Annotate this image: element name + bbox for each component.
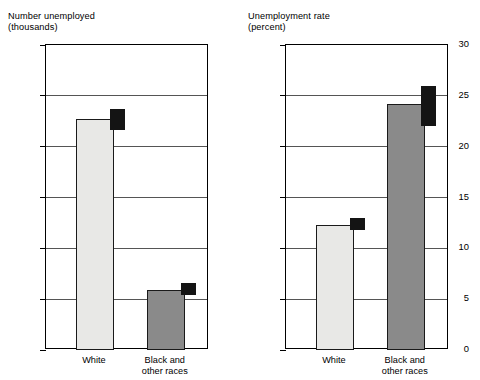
y-axis-tick-label: 5: [464, 292, 469, 303]
y-axis-tick-label: 30: [459, 38, 469, 49]
y-axis-tick-label: 25: [459, 89, 469, 100]
bar: [76, 119, 114, 350]
y-axis-tick: [280, 197, 286, 198]
chart-panel-unemployment-rate: Unemployment rate(percent) 051015202530W…: [240, 0, 480, 380]
y-axis-tick: [40, 299, 46, 300]
x-axis-category-label: Black andother races: [382, 355, 428, 377]
bar-value-marker: [181, 283, 196, 296]
bar-value-marker: [110, 109, 125, 131]
left-chart-axis-title: Number unemployed(thousands): [8, 11, 95, 33]
y-axis-tick: [280, 350, 286, 351]
left-chart-title-line2: (thousands): [8, 22, 58, 32]
left-chart-title-line1: Number unemployed: [8, 11, 95, 21]
y-axis-tick: [280, 248, 286, 249]
y-axis-tick: [280, 45, 286, 46]
category-label-line1: Black and: [385, 355, 425, 365]
y-axis-tick: [40, 45, 46, 46]
y-axis-tick: [40, 197, 46, 198]
category-label-line1: White: [322, 355, 346, 365]
y-axis-tick: [280, 146, 286, 147]
y-axis-tick: [40, 95, 46, 96]
x-axis-category-label: White: [82, 355, 106, 366]
y-axis-tick-label: 10: [459, 241, 469, 252]
right-chart-title-line1: Unemployment rate: [248, 11, 330, 21]
x-axis-category-label: Black andother races: [142, 355, 188, 377]
y-axis-tick: [40, 350, 46, 351]
two-panel-bar-chart-figure: Number unemployed(thousands) 02004006008…: [0, 0, 480, 380]
bar: [387, 104, 425, 350]
bar: [316, 225, 354, 350]
bar-value-marker: [421, 86, 436, 127]
gridline: [46, 248, 207, 249]
category-label-line1: White: [82, 355, 106, 365]
x-axis-category-label: White: [322, 355, 346, 366]
gridline: [46, 197, 207, 198]
left-chart-plot-area: [45, 44, 208, 349]
chart-panel-number-unemployed: Number unemployed(thousands) 02004006008…: [0, 0, 240, 380]
y-axis-tick-label: 0: [464, 343, 469, 354]
right-chart-axis-title: Unemployment rate(percent): [248, 11, 330, 33]
category-label-line2: other races: [382, 366, 428, 376]
y-axis-tick: [280, 299, 286, 300]
gridline: [46, 95, 207, 96]
gridline: [46, 146, 207, 147]
bar-value-marker: [350, 218, 365, 230]
bar: [147, 290, 185, 350]
category-label-line2: other races: [142, 366, 188, 376]
y-axis-tick-label: 15: [459, 191, 469, 202]
y-axis-tick-label: 20: [459, 140, 469, 151]
y-axis-tick: [280, 95, 286, 96]
category-label-line1: Black and: [145, 355, 185, 365]
y-axis-tick: [40, 248, 46, 249]
right-chart-title-line2: (percent): [248, 22, 286, 32]
y-axis-tick: [40, 146, 46, 147]
right-chart-plot-area: [285, 44, 448, 349]
